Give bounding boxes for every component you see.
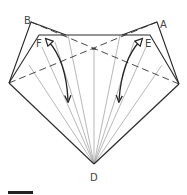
fold-diagram: B A F E D xyxy=(0,0,187,195)
label-d: D xyxy=(90,172,98,183)
label-a: A xyxy=(160,19,167,30)
right-fold-arrow xyxy=(119,41,140,100)
label-f: F xyxy=(36,38,42,49)
label-e: E xyxy=(145,38,151,49)
scale-bar xyxy=(8,191,33,194)
left-fold-arrow xyxy=(48,41,68,100)
fold-lines xyxy=(29,35,162,164)
label-b: B xyxy=(24,15,31,26)
